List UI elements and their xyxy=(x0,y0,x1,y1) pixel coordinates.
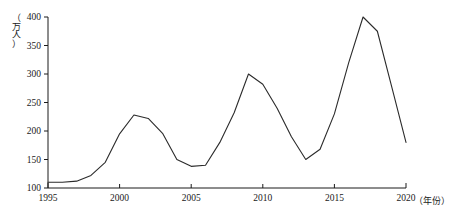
x-tick-label: 1995 xyxy=(39,193,58,203)
x-axis-ticks: 199520002005201020152020 xyxy=(39,183,416,203)
y-tick-label: 400 xyxy=(27,12,42,22)
x-tick-label: 2015 xyxy=(325,193,344,203)
x-tick-label: 2000 xyxy=(110,193,129,203)
x-tick-label: 2020 xyxy=(397,193,416,203)
line-chart: （ 万 人 ） （年份） 100150200250300350400 19952… xyxy=(0,0,462,219)
y-axis-ticks: 100150200250300350400 xyxy=(27,12,48,193)
y-tick-label: 100 xyxy=(27,183,42,193)
y-tick-label: 250 xyxy=(27,98,42,108)
data-series-line xyxy=(48,17,406,182)
y-tick-label: 350 xyxy=(27,41,42,51)
plot-area: 100150200250300350400 199520002005201020… xyxy=(0,0,462,219)
y-tick-label: 150 xyxy=(27,155,42,165)
y-tick-label: 300 xyxy=(27,69,42,79)
x-tick-label: 2005 xyxy=(182,193,201,203)
y-tick-label: 200 xyxy=(27,126,42,136)
x-tick-label: 2010 xyxy=(253,193,272,203)
